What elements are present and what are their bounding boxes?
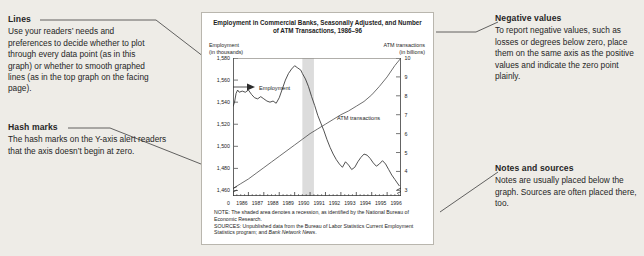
series-line-employment <box>233 66 399 186</box>
left-axis-caption: Employment(in thousands) <box>209 42 243 55</box>
left-axis-tick: 1,480 <box>217 165 230 171</box>
x-axis-tick: 1994 <box>360 200 371 206</box>
annotation-lines-heading: Lines <box>8 14 31 25</box>
plot-svg <box>233 58 401 196</box>
right-axis-tick: 6 <box>405 131 408 137</box>
right-axis-tick: 5 <box>405 150 408 156</box>
annotation-hash-marks: Hash marks The hash marks on the Y-axis … <box>8 122 174 157</box>
annotation-negative-values: Negative values To report negative value… <box>495 13 637 82</box>
x-axis-tick: 1988 <box>267 200 278 206</box>
x-axis-tick: 1993 <box>344 200 355 206</box>
recession-shaded-band <box>302 58 314 196</box>
left-axis-tick: 1,520 <box>217 121 230 127</box>
annotation-notes-and-sources-body: Notes are usually placed below the graph… <box>495 175 641 209</box>
right-axis-tick: 4 <box>405 168 408 174</box>
annotation-negative-values-body: To report negative values, such as losse… <box>495 25 637 82</box>
chart-footnotes: NOTE: The shaded area denotes a recessio… <box>214 209 423 236</box>
x-axis-tick: 1990 <box>298 200 309 206</box>
annotation-lines-body: Use your readers’ needs and preferences … <box>8 26 158 94</box>
chart-sources: SOURCES: Unpublished data from the Burea… <box>214 223 423 236</box>
employment-pointer-arrow <box>233 84 255 91</box>
right-axis-tick: 3 <box>405 187 408 193</box>
right-axis-tick: 7 <box>405 112 408 118</box>
left-axis-tick: 1,560 <box>217 77 230 83</box>
x-axis-tick: 1986 <box>236 200 247 206</box>
x-axis-tick: 1992 <box>329 200 340 206</box>
x-axis-tick: 1987 <box>252 200 263 206</box>
axis-tick-marks <box>233 58 400 196</box>
right-axis-tick: 10 <box>405 55 411 61</box>
series-line-atm-transactions <box>233 58 401 188</box>
right-axis-tick: 8 <box>405 93 408 99</box>
annotation-hash-marks-heading: Hash marks <box>8 122 58 133</box>
chart-sources-period: . <box>315 229 316 235</box>
x-axis-origin-label: 0 <box>227 200 230 206</box>
x-axis-tick: 1996 <box>390 200 401 206</box>
annotation-lines: Lines Use your readers’ needs and prefer… <box>8 14 158 95</box>
leader-line-notes-callout <box>440 170 498 214</box>
left-axis-tick: 1,540 <box>217 99 230 105</box>
annotation-notes-and-sources-heading: Notes and sources <box>495 163 574 174</box>
right-axis-tick: 9 <box>405 74 408 80</box>
left-axis-tick: 1,500 <box>217 143 230 149</box>
chart-title: Employment in Commercial Banks, Seasonal… <box>212 19 423 35</box>
series-label-employment: Employment <box>259 85 290 91</box>
chart-note: NOTE: The shaded area denotes a recessio… <box>214 209 423 222</box>
series-label-atm-transactions: ATM transactions <box>337 115 380 121</box>
plot-area: 1,4601,4801,5001,5201,5401,5601,580 3456… <box>233 58 401 196</box>
left-axis-tick: 1,580 <box>217 55 230 61</box>
y-axis-hash-marks <box>233 187 401 194</box>
x-axis-tick: 1995 <box>375 200 386 206</box>
left-axis-tick: 1,460 <box>217 187 230 193</box>
right-axis-caption: ATM transactions(in billions) <box>383 42 425 55</box>
annotation-notes-and-sources: Notes and sources Notes are usually plac… <box>495 163 641 210</box>
x-axis-tick: 1991 <box>313 200 324 206</box>
leader-line-negative-values-callout <box>436 20 498 36</box>
x-axis-tick: 1989 <box>283 200 294 206</box>
chart-panel: Employment in Commercial Banks, Seasonal… <box>201 12 434 245</box>
chart-sources-publication: Bank Network News <box>269 229 316 235</box>
annotation-negative-values-heading: Negative values <box>495 13 561 24</box>
annotation-hash-marks-body: The hash marks on the Y-axis alert reade… <box>8 134 174 157</box>
